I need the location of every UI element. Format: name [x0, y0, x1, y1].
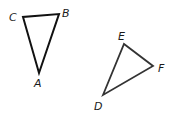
vertex-label-a: A — [33, 77, 42, 90]
triangle-def — [103, 44, 153, 95]
vertex-label-e: E — [118, 30, 125, 43]
vertex-label-f: F — [158, 62, 165, 75]
vertex-label-d: D — [94, 100, 102, 113]
vertex-label-c: C — [9, 11, 17, 24]
triangle-abc — [23, 14, 59, 73]
diagram-canvas: C B A E F D — [0, 0, 171, 115]
vertex-label-b: B — [62, 7, 70, 20]
diagram-svg: C B A E F D — [0, 0, 171, 115]
